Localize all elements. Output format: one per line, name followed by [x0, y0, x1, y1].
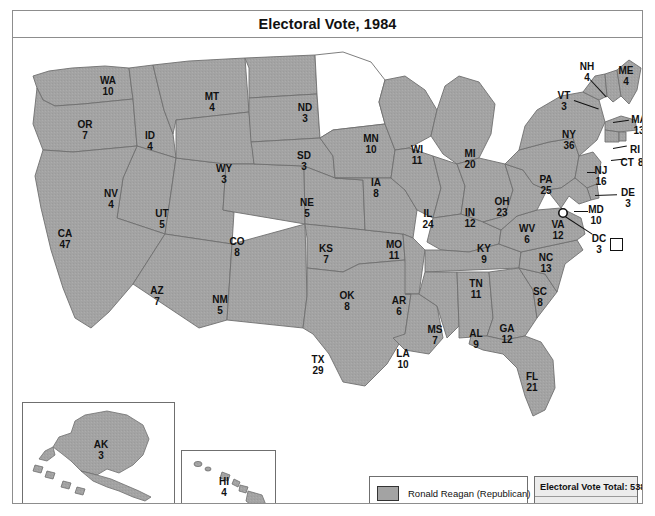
state-NM	[227, 224, 307, 328]
legend-item-reagan: Ronald Reagan (Republican)	[377, 483, 520, 503]
state-ND	[245, 55, 317, 98]
hawaii-inset: HI4	[181, 450, 276, 503]
alaska-shape	[23, 403, 172, 503]
legend-label-reagan: Ronald Reagan (Republican)	[408, 488, 531, 499]
map-legend: Ronald Reagan (Republican) Walter Mondal…	[369, 476, 528, 503]
dc-marker-icon	[556, 206, 570, 220]
state-TX	[303, 260, 411, 386]
map-figure-frame: Electoral Vote, 1984	[12, 10, 643, 504]
state-MA	[605, 116, 637, 132]
electoral-vote-totals: Electoral Vote Total: 538 Reagan: 525 Mo…	[534, 476, 638, 503]
state-WA	[33, 66, 133, 106]
legend-swatch-reagan	[377, 486, 399, 501]
state-WY	[176, 112, 254, 164]
page-title: Electoral Vote, 1984	[259, 16, 397, 32]
hawaii-shape	[182, 451, 273, 503]
map-title-bar: Electoral Vote, 1984	[13, 11, 642, 38]
state-CT	[605, 130, 619, 142]
state-MI	[431, 76, 495, 164]
state-RI	[619, 132, 626, 141]
leader-line-MD	[574, 211, 588, 212]
alaska-inset: AK3	[22, 402, 175, 503]
state-OH	[457, 158, 513, 222]
state-ME	[617, 60, 641, 104]
totals-reagan: Reagan: 525	[540, 501, 632, 503]
state-FL	[469, 336, 555, 416]
state-SD	[249, 94, 320, 142]
totals-header: Electoral Vote Total: 538	[535, 477, 637, 497]
leader-line-NJ	[587, 172, 595, 173]
state-CO	[223, 164, 305, 224]
map-canvas: WA10 OR7 ID4 MT4 NV4 CA47 UT5 AZ7 NM5 WY…	[13, 38, 642, 503]
state-AL	[457, 272, 493, 338]
dc-white-swatch	[610, 238, 623, 251]
totals-body: Reagan: 525 Mondale: 13	[535, 497, 637, 503]
